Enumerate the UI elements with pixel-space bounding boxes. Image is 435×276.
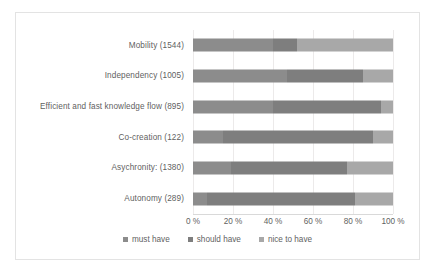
bar-segment-nice-to-have xyxy=(355,192,393,205)
bar-segment-must-have xyxy=(193,69,287,82)
stacked-bar xyxy=(193,192,393,205)
bar-category-label: Asychronity: (1380) xyxy=(112,153,193,184)
bar-segment-nice-to-have xyxy=(297,39,393,52)
legend-item-nice-to-have[interactable]: nice to have xyxy=(259,235,312,244)
bar-category-label: Independency (1005) xyxy=(105,61,193,92)
chart-container: Mobility (1544)Independency (1005)Effici… xyxy=(15,12,420,260)
x-tick-label: 80 % xyxy=(344,217,363,226)
bar-segment-nice-to-have xyxy=(373,131,393,144)
bar-segment-should-have xyxy=(223,131,373,144)
x-tick-label: 60 % xyxy=(304,217,323,226)
bar-row: Efficient and fast knowledge flow (895) xyxy=(193,91,393,122)
bar-category-label: Efficient and fast knowledge flow (895) xyxy=(40,91,193,122)
gridline-100 xyxy=(393,30,394,214)
bar-segment-should-have xyxy=(273,39,297,52)
x-tick-label: 0 % xyxy=(186,217,200,226)
legend-label: nice to have xyxy=(268,235,312,244)
bar-segment-should-have xyxy=(207,192,355,205)
chart-legend: must haveshould havenice to have xyxy=(16,235,419,244)
bar-segment-must-have xyxy=(193,131,223,144)
stacked-bar xyxy=(193,161,393,174)
x-tick-label: 40 % xyxy=(264,217,283,226)
stacked-bar xyxy=(193,39,393,52)
bar-row: Asychronity: (1380) xyxy=(193,153,393,184)
x-tick-label: 100 % xyxy=(381,217,404,226)
legend-swatch-icon xyxy=(188,237,193,242)
legend-label: must have xyxy=(132,235,170,244)
bar-rows: Mobility (1544)Independency (1005)Effici… xyxy=(193,30,393,214)
bar-segment-must-have xyxy=(193,100,273,113)
bar-segment-nice-to-have xyxy=(363,69,393,82)
legend-item-must-have[interactable]: must have xyxy=(123,235,170,244)
bar-row: Co-creation (122) xyxy=(193,122,393,153)
bar-category-label: Co-creation (122) xyxy=(119,122,193,153)
bar-row: Independency (1005) xyxy=(193,61,393,92)
plot-area: Mobility (1544)Independency (1005)Effici… xyxy=(193,30,393,214)
bar-segment-should-have xyxy=(273,100,381,113)
legend-swatch-icon xyxy=(123,237,128,242)
bar-segment-nice-to-have xyxy=(347,161,393,174)
x-axis: 0 %20 %40 %60 %80 %100 % xyxy=(193,214,393,230)
bar-segment-should-have xyxy=(287,69,363,82)
x-tick-label: 20 % xyxy=(224,217,243,226)
bar-row: Mobility (1544) xyxy=(193,30,393,61)
legend-item-should-have[interactable]: should have xyxy=(188,235,241,244)
bar-row: Autonomy (289) xyxy=(193,183,393,214)
legend-swatch-icon xyxy=(259,237,264,242)
legend-label: should have xyxy=(197,235,241,244)
bar-category-label: Mobility (1544) xyxy=(129,30,193,61)
bar-category-label: Autonomy (289) xyxy=(124,183,193,214)
bar-segment-should-have xyxy=(231,161,347,174)
stacked-bar xyxy=(193,69,393,82)
bar-segment-nice-to-have xyxy=(381,100,393,113)
stacked-bar xyxy=(193,131,393,144)
x-axis-line xyxy=(193,214,393,215)
stacked-bar xyxy=(193,100,393,113)
bar-segment-must-have xyxy=(193,39,273,52)
bar-segment-must-have xyxy=(193,192,207,205)
bar-segment-must-have xyxy=(193,161,231,174)
